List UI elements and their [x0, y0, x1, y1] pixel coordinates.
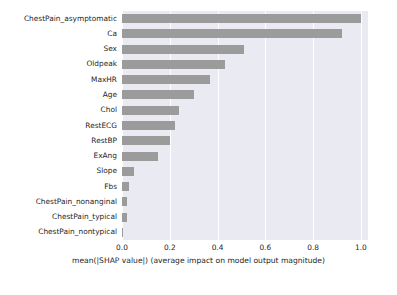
x-tick-label: 0.0 — [116, 243, 128, 252]
bar — [122, 121, 175, 130]
x-axis-label: mean(|SHAP value|) (average impact on mo… — [0, 256, 397, 265]
y-tick-label: Oldpeak — [0, 60, 117, 67]
bar — [122, 75, 210, 84]
x-axis-label-text: mean(|SHAP value|) (average impact on mo… — [72, 256, 325, 265]
shap-feature-importance-figure: ChestPain_asymptomaticCaSexOldpeakMaxHRA… — [0, 0, 397, 295]
x-tick-label: 1.0 — [355, 243, 367, 252]
bar-row — [122, 179, 368, 194]
bar-row — [122, 42, 368, 57]
bar — [122, 29, 342, 38]
bar-series — [122, 11, 368, 240]
bar-row — [122, 72, 368, 87]
y-tick-label: MaxHR — [0, 76, 117, 83]
y-axis-tick-labels: ChestPain_asymptomaticCaSexOldpeakMaxHRA… — [0, 11, 117, 240]
bar-row — [122, 87, 368, 102]
bar — [122, 60, 225, 69]
bar-row — [122, 57, 368, 72]
bar-row — [122, 225, 368, 240]
x-tick-label: 0.4 — [212, 243, 224, 252]
bar — [122, 106, 179, 115]
bar-row — [122, 148, 368, 163]
y-tick-label: RestECG — [0, 122, 117, 129]
bar-row — [122, 164, 368, 179]
x-tick-label: 0.2 — [164, 243, 176, 252]
bar — [122, 197, 127, 206]
bar — [122, 90, 194, 99]
x-axis-tick-labels: 0.00.20.40.60.81.0 — [122, 243, 368, 255]
bar — [122, 14, 361, 23]
bar — [122, 213, 127, 222]
bar — [122, 45, 244, 54]
y-tick-label: ChestPain_nontypical — [0, 228, 117, 235]
y-tick-label: Fbs — [0, 183, 117, 190]
x-tick-label: 0.6 — [259, 243, 271, 252]
y-tick-label: Sex — [0, 45, 117, 52]
bar — [122, 228, 123, 237]
bar-row — [122, 26, 368, 41]
y-tick-label: ChestPain_asymptomatic — [0, 15, 117, 22]
y-tick-label: ChestPain_nonanginal — [0, 198, 117, 205]
bar — [122, 167, 134, 176]
bar-row — [122, 103, 368, 118]
bar-row — [122, 194, 368, 209]
bar — [122, 136, 170, 145]
y-tick-label: Chol — [0, 106, 117, 113]
x-tick-label: 0.8 — [307, 243, 319, 252]
bar — [122, 182, 129, 191]
plot-area — [122, 11, 368, 240]
bar-row — [122, 118, 368, 133]
y-tick-label: ExAng — [0, 152, 117, 159]
y-tick-label: ChestPain_typical — [0, 213, 117, 220]
y-tick-label: RestBP — [0, 137, 117, 144]
bar-row — [122, 133, 368, 148]
bar-row — [122, 209, 368, 224]
y-tick-label: Age — [0, 91, 117, 98]
bar-row — [122, 11, 368, 26]
y-tick-label: Ca — [0, 30, 117, 37]
y-tick-label: Slope — [0, 167, 117, 174]
bar — [122, 152, 158, 161]
